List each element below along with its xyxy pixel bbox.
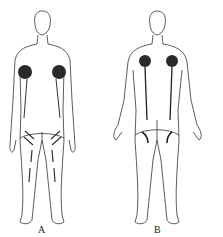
figure-label-a: A xyxy=(38,224,45,235)
body-diagram xyxy=(0,0,223,237)
figure-b-outline xyxy=(114,11,201,224)
figure-label-b: B xyxy=(154,224,161,235)
figure-a-marks xyxy=(18,65,66,182)
figure-a-outline xyxy=(10,11,75,224)
